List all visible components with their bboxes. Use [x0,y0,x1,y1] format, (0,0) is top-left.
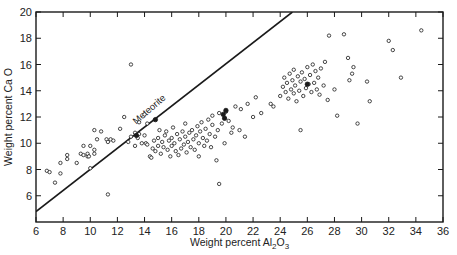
y-tick-label: 18 [20,32,32,44]
data-point [208,132,211,135]
data-point [350,72,353,75]
data-point [297,89,300,92]
data-point [292,92,295,95]
data-point [143,134,146,137]
data-point [175,132,178,135]
data-point [299,128,302,131]
data-point [352,65,355,68]
data-point [133,144,136,147]
data-point [333,88,336,91]
data-point [186,140,189,143]
data-point [197,155,200,158]
data-point [365,80,368,83]
data-point [308,73,311,76]
data-point [296,75,299,78]
data-point [323,60,326,63]
data-point [356,122,359,125]
data-point [204,127,207,130]
data-point [156,144,159,147]
data-point [220,122,223,125]
data-point [189,145,192,148]
data-point [211,114,214,117]
data-point [166,148,169,151]
data-point [315,88,318,91]
data-point [299,80,302,83]
meteorite-label: Meteorite [130,92,167,126]
data-point [89,166,92,169]
data-point [399,76,402,79]
data-point [216,128,219,131]
data-point [140,142,143,145]
data-point [223,142,226,145]
x-tick-label: 32 [383,225,395,237]
data-point [82,153,85,156]
data-point [118,127,121,130]
data-point [205,139,208,142]
data-point-filled [222,116,226,120]
y-axis-label: Weight percent Ca O [2,68,14,166]
data-point [217,182,220,185]
data-point [173,142,176,145]
x-tick-label: 28 [328,225,340,237]
x-tick-label: 34 [410,225,422,237]
data-point [316,76,319,79]
data-point [272,105,275,108]
data-point [295,100,298,103]
data-point [254,96,257,99]
y-tick-label: 8 [26,164,32,176]
data-point [66,153,69,156]
data-point [194,134,197,137]
data-point-filled [134,133,138,137]
data-point [184,135,187,138]
data-point [348,79,351,82]
scatter-chart: 6810121416182022242628303234366810121416… [0,0,457,255]
data-point [227,119,230,122]
data-point [146,122,149,125]
data-point [182,143,185,146]
data-point [239,107,242,110]
data-point [387,39,390,42]
x-tick-label: 26 [301,225,313,237]
data-point [127,140,130,143]
x-tick-label: 30 [355,225,367,237]
data-point-filled [224,108,228,112]
data-point [243,135,246,138]
data-point [66,157,69,160]
data-point [346,56,349,59]
data-point [302,94,305,97]
data-point [95,138,98,141]
y-tick-label: 10 [20,137,32,149]
data-point [217,111,220,114]
data-point [165,130,168,133]
plot-frame [36,12,443,222]
data-point [281,85,284,88]
data-point [327,34,330,37]
data-point [207,118,210,121]
x-tick-label: 16 [166,225,178,237]
data-point [285,81,288,84]
data-point [215,159,218,162]
plot-area: 6810121416182022242628303234366810121416… [2,6,449,251]
y-tick-label: 16 [20,59,32,71]
data-point [163,134,166,137]
data-point [196,124,199,127]
data-point [160,140,163,143]
x-tick-label: 12 [111,225,123,237]
data-point [89,144,92,147]
data-point [251,115,254,118]
x-axis-label: Weight percent Al2O3 [190,236,290,251]
data-point [159,152,162,155]
data-point [59,172,62,175]
data-point [368,100,371,103]
data-point [234,105,237,108]
data-point [59,161,62,164]
data-point [314,69,317,72]
data-point [154,149,157,152]
data-point [112,139,115,142]
data-point [311,63,314,66]
data-point [178,138,181,141]
data-point [260,111,263,114]
y-tick-label: 14 [20,85,32,97]
data-point [420,29,423,32]
data-point [201,136,204,139]
